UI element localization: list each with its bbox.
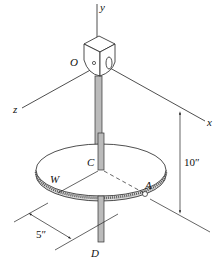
extension-line-1 xyxy=(14,203,48,222)
mechanics-diagram xyxy=(0,0,222,266)
label-A: A xyxy=(145,180,152,191)
label-5in: 5″ xyxy=(36,229,46,240)
x-axis xyxy=(110,68,205,121)
bearing-block xyxy=(84,36,115,76)
label-C: C xyxy=(87,157,94,168)
label-W: W xyxy=(50,174,59,185)
label-x: x xyxy=(207,117,212,128)
point-A xyxy=(143,192,148,197)
label-O: O xyxy=(70,57,78,68)
pivot-O xyxy=(92,61,95,64)
z-axis xyxy=(22,68,94,108)
label-10in: 10″ xyxy=(184,157,200,168)
extension-line-2 xyxy=(55,214,118,250)
label-y: y xyxy=(100,2,105,13)
label-z: z xyxy=(13,104,17,115)
shaft-lower xyxy=(98,196,104,242)
label-D: D xyxy=(91,248,99,259)
shaft-mid xyxy=(98,133,104,170)
